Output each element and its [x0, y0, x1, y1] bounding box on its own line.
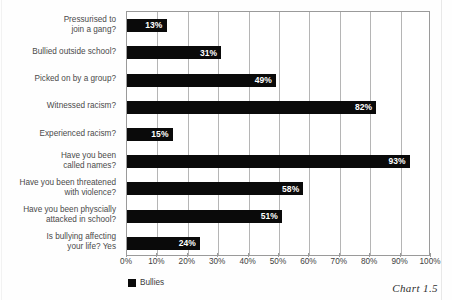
x-axis-tick-label: 80%	[361, 257, 377, 266]
x-axis-tick-label: 0%	[120, 257, 132, 266]
bar-row: 51%	[127, 203, 429, 230]
bar-value-label: 13%	[145, 21, 166, 30]
x-axis-tick-mark	[278, 253, 279, 257]
x-axis-tick-label: 60%	[300, 257, 316, 266]
bar-series: 13%31%49%82%15%93%58%51%24%	[127, 12, 429, 255]
bar: 51%	[127, 210, 282, 223]
scan-artifact-right	[441, 0, 442, 300]
x-axis-tick-label: 10%	[148, 257, 164, 266]
bar-row: 31%	[127, 39, 429, 66]
legend-label-bullies: Bullies	[140, 278, 164, 287]
x-axis-tick-mark	[308, 253, 309, 257]
category-label: Experienced racism?	[0, 129, 116, 139]
bar-value-label: 82%	[355, 103, 376, 112]
bar-value-label: 24%	[179, 239, 200, 248]
bar-value-label: 31%	[200, 49, 221, 58]
chart-page: Pressurised to join a gang?Bullied outsi…	[0, 0, 452, 300]
bar-value-label: 93%	[388, 157, 409, 166]
category-axis-labels: Pressurised to join a gang?Bullied outsi…	[0, 11, 120, 256]
x-axis-tick-label: 20%	[179, 257, 195, 266]
plot-area: 13%31%49%82%15%93%58%51%24%	[126, 11, 430, 256]
x-axis-tick-label: 90%	[391, 257, 407, 266]
category-label: Have you been physcially attacked in sch…	[0, 205, 116, 225]
category-label: Picked on by a group?	[0, 74, 116, 84]
category-label: Bullied outside school?	[0, 47, 116, 57]
bar-value-label: 49%	[255, 76, 276, 85]
bar: 15%	[127, 128, 173, 141]
x-axis-tick-label: 40%	[239, 257, 255, 266]
x-axis-tick-mark	[339, 253, 340, 257]
bar: 93%	[127, 155, 410, 168]
x-axis-tick-label: 30%	[209, 257, 225, 266]
x-axis-tick-mark	[126, 253, 127, 257]
bar-row: 15%	[127, 121, 429, 148]
category-label: Pressurised to join a gang?	[0, 15, 116, 35]
value-axis: 0%10%20%30%40%50%60%70%80%90%100%	[126, 257, 430, 269]
bar-row: 58%	[127, 175, 429, 202]
bar-row: 49%	[127, 66, 429, 93]
x-axis-tick-label: 70%	[331, 257, 347, 266]
bar: 24%	[127, 237, 200, 250]
category-label: Have you been called names?	[0, 151, 116, 171]
category-label: Is bullying affecting your life? Yes	[0, 232, 116, 252]
bar: 31%	[127, 46, 221, 59]
x-axis-tick-mark	[369, 253, 370, 257]
bar: 49%	[127, 74, 276, 87]
x-axis-tick-label: 50%	[270, 257, 286, 266]
x-axis-tick-mark	[217, 253, 218, 257]
category-label: Witnessed racism?	[0, 101, 116, 111]
bar-value-label: 15%	[151, 130, 172, 139]
x-axis-tick-mark	[248, 253, 249, 257]
x-axis-tick-mark	[187, 253, 188, 257]
bar-value-label: 51%	[261, 212, 282, 221]
x-axis-tick-mark	[156, 253, 157, 257]
x-axis-tick-mark	[430, 253, 431, 257]
category-label: Have you been threatened with violence?	[0, 178, 116, 198]
bar-row: 82%	[127, 94, 429, 121]
chart-legend: Bullies	[128, 278, 164, 287]
bar: 58%	[127, 182, 303, 195]
bar-row: 93%	[127, 148, 429, 175]
bar-value-label: 58%	[282, 185, 303, 194]
bar-row: 13%	[127, 12, 429, 39]
bar: 82%	[127, 101, 376, 114]
x-axis-tick-mark	[400, 253, 401, 257]
legend-swatch-bullies	[128, 279, 136, 287]
x-axis-tick-label: 100%	[420, 257, 441, 266]
chart-caption: Chart 1.5	[392, 282, 438, 294]
bar: 13%	[127, 19, 167, 32]
